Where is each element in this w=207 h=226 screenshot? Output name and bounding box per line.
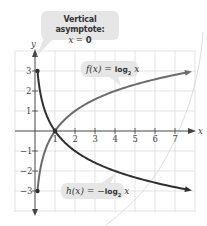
h-lhs: h(x) = − <box>61 186 105 196</box>
f-lhs: f(x) = <box>81 64 115 74</box>
h-var: x <box>121 186 129 196</box>
x-tick-label: 3 <box>93 134 98 144</box>
data-point <box>53 129 57 133</box>
asymptote-equation: x = 0 <box>41 35 119 46</box>
y-tick-label: 2 <box>26 86 31 96</box>
y-tick-label: −2 <box>20 166 33 176</box>
x-tick-label: 6 <box>153 134 158 144</box>
asymptote-equals: = <box>73 35 86 45</box>
x-tick-label: 5 <box>133 134 138 144</box>
asymptote-callout: Vertical asymptote: x = 0 <box>41 11 119 40</box>
y-axis-label: y <box>30 39 36 49</box>
f-callout-pointer <box>108 76 121 86</box>
h-log: log <box>105 187 118 196</box>
asymptote-title: Vertical asymptote: <box>41 15 119 35</box>
data-point <box>35 189 39 193</box>
y-axis-down-arrow-icon <box>32 209 38 216</box>
f-label-callout: f(x) = log2 x <box>81 61 138 77</box>
x-tick-label: 4 <box>113 134 118 144</box>
x-tick-label: 7 <box>173 134 178 144</box>
asymptote-value: 0 <box>86 35 92 45</box>
y-tick-label: 1 <box>26 106 31 116</box>
y-tick-label: −1 <box>20 146 33 156</box>
f-curve <box>38 73 187 191</box>
x-axis-label: x <box>198 126 203 136</box>
x-tick-label: 2 <box>73 134 78 144</box>
f-var: x <box>131 64 139 74</box>
h-label-callout: h(x) = −log2 x <box>61 183 124 199</box>
f-log: log <box>115 65 128 74</box>
y-tick-label: −3 <box>20 186 33 196</box>
h-curve <box>38 71 187 189</box>
y-tick-label: 3 <box>26 66 31 76</box>
data-point <box>35 69 39 73</box>
